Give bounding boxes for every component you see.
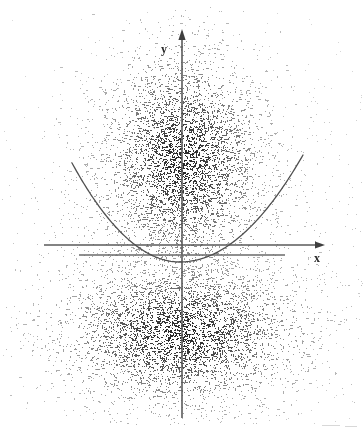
y-axis [178, 29, 185, 418]
parabola-curve [72, 155, 303, 262]
axes-and-curve-layer [0, 0, 364, 430]
bottom-right-scan-mark [322, 425, 340, 426]
x-axis [44, 241, 325, 248]
y-axis-label: y [161, 43, 167, 55]
scatter-plot-figure: y x [0, 0, 364, 430]
bottom-right-scan-mark-2 [345, 426, 357, 427]
x-axis-label: x [314, 252, 320, 264]
